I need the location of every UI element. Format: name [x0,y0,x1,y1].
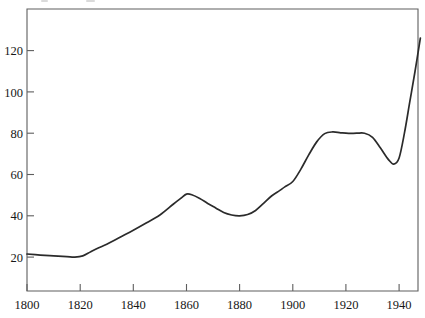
y-tick-label-120: 120 [4,44,23,58]
x-tick-label-1900: 1900 [280,298,305,312]
x-tick-label-1940: 1940 [387,298,412,312]
x-tick-label-1800: 1800 [15,298,40,312]
x-tick-label-1820: 1820 [68,298,93,312]
x-tick-label-1880: 1880 [227,298,252,312]
y-tick-label-80: 80 [11,127,24,141]
y-tick-label-60: 60 [11,168,24,182]
y-axis-ticks [27,51,34,258]
x-tick-label-1860: 1860 [174,298,199,312]
y-tick-label-100: 100 [4,86,23,100]
data-series-line [27,38,420,257]
plot-frame [27,9,418,291]
y-tick-label-20: 20 [11,251,24,265]
scan-artifact-marks [41,0,95,2]
y-tick-label-40: 40 [11,209,24,223]
x-tick-label-1920: 1920 [333,298,358,312]
x-axis-labels: 1800 1820 1840 1860 1880 1900 1920 1940 [15,298,412,312]
y-axis-labels: 120 100 80 60 40 20 [4,44,23,265]
line-chart: 120 100 80 60 40 20 1800 1820 1840 1860 … [0,0,425,318]
chart-container: 120 100 80 60 40 20 1800 1820 1840 1860 … [0,0,425,318]
x-axis-ticks [27,284,399,291]
x-tick-label-1840: 1840 [121,298,146,312]
